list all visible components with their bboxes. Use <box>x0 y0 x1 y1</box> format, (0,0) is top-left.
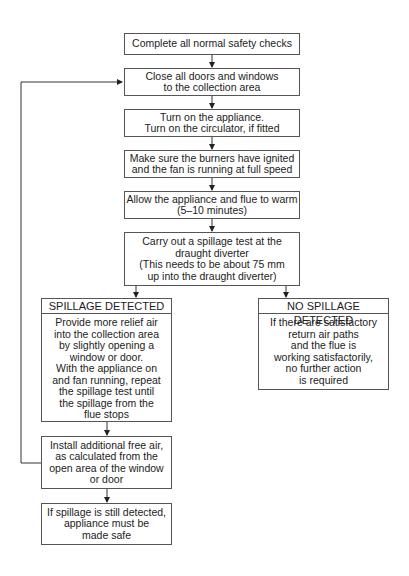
step-safety-checks: Complete all normal safety checks <box>124 33 300 55</box>
body-line: flue stops <box>52 409 161 421</box>
body-line: and the flue is <box>270 340 377 352</box>
body-line: made safe <box>82 530 131 542</box>
make-safe-box: If spillage is still detected, appliance… <box>41 503 172 545</box>
body-line: or door <box>90 474 123 486</box>
body-line: With the appliance on <box>52 363 161 375</box>
step-text: Turn on the circulator, if fitted <box>144 123 279 135</box>
step-text: and the fan is running at full speed <box>132 164 293 176</box>
step-turn-on: Turn on the appliance. Turn on the circu… <box>124 109 300 137</box>
body-line: by slightly opening a <box>52 340 161 352</box>
step-text: to the collection area <box>164 82 261 94</box>
no-spillage-detected-box: NO SPILLAGE DETECTED If there are satisf… <box>258 298 389 390</box>
step-text: up into the draught diverter) <box>148 271 277 283</box>
spillage-detected-header: SPILLAGE DETECTED <box>42 299 171 314</box>
step-close-doors: Close all doors and windows to the colle… <box>124 68 300 96</box>
body-line: no further action <box>270 363 377 375</box>
body-line: Provide more relief air <box>52 317 161 329</box>
step-text: Carry out a spillage test at the <box>142 236 282 248</box>
spillage-detected-body: Provide more relief air into the collect… <box>52 314 161 421</box>
body-line: is required <box>270 375 377 387</box>
body-line: as calculated from the <box>55 451 158 463</box>
body-line: If there are satisfactory <box>270 317 377 329</box>
spillage-detected-box: SPILLAGE DETECTED Provide more relief ai… <box>41 298 172 422</box>
step-burners: Make sure the burners have ignited and t… <box>124 150 300 178</box>
no-spillage-detected-header: NO SPILLAGE DETECTED <box>259 299 388 314</box>
step-spillage-test: Carry out a spillage test at the draught… <box>124 232 300 286</box>
no-spillage-detected-body: If there are satisfactory return air pat… <box>270 314 377 386</box>
install-additional-air-box: Install additional free air, as calculat… <box>41 436 172 489</box>
step-text: (This needs to be about 75 mm <box>139 259 284 271</box>
step-text: (5–10 minutes) <box>177 205 247 217</box>
body-line: the spillage test until <box>52 386 161 398</box>
step-warm: Allow the appliance and flue to warm (5–… <box>124 191 300 219</box>
step-text: Complete all normal safety checks <box>132 38 292 50</box>
